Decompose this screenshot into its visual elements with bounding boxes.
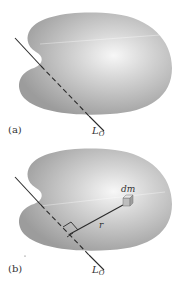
radius-label: r (99, 220, 104, 230)
panel-a: (a) LO (8, 13, 172, 138)
panel-b: dm r (b) LO (8, 149, 172, 277)
mass-element-label: dm (121, 184, 135, 194)
axis-label-b: LO (91, 264, 105, 277)
panel-b-label: (b) (8, 263, 22, 274)
rigid-body-shape (19, 13, 172, 115)
axis-label-a: LO (91, 125, 105, 138)
rigid-body-diagram: (a) LO dm r (b) LO (0, 0, 182, 289)
mass-element-cube (123, 195, 133, 206)
panel-a-label: (a) (8, 124, 22, 135)
